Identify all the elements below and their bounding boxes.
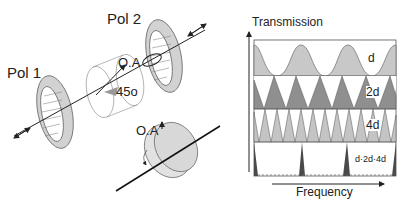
y-axis-label: Transmission (252, 16, 323, 28)
series-label-2d: 2d (366, 86, 379, 98)
pol2-label: Pol 2 (107, 11, 141, 26)
series-label-d: d (368, 52, 375, 64)
optic-axis-label: O.A (118, 56, 140, 69)
x-axis-label: Frequency (296, 186, 353, 198)
series-label-product: d·2d·4d (355, 155, 386, 164)
polarizer-2-icon (140, 16, 189, 95)
figure-graphics (0, 0, 409, 206)
angle-label: 45o (116, 85, 138, 98)
polarizer-1-icon (31, 72, 80, 151)
lyot-filter-figure: Pol 1 Pol 2 O.A 45o O.A Transmission Fre… (0, 0, 409, 206)
series-label-4d: 4d (366, 119, 379, 131)
crystal-axis-label: O.A (136, 124, 158, 137)
pol1-label: Pol 1 (7, 65, 41, 80)
crystal-rotation-icon (116, 114, 220, 191)
